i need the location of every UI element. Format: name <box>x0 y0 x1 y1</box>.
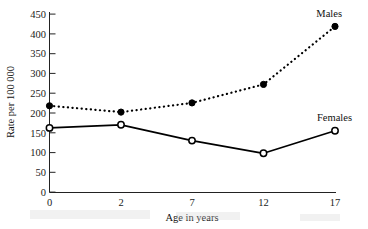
x-tick-labels: 0 2 7 12 17 <box>47 197 340 208</box>
x-tick-label: 17 <box>330 197 341 208</box>
y-tick-label: 350 <box>30 48 46 59</box>
females-point <box>332 128 338 134</box>
series-label-males: Males <box>316 8 342 19</box>
y-tick-label: 250 <box>30 88 46 99</box>
males-line <box>50 26 336 112</box>
y-tick-label: 400 <box>30 29 46 40</box>
line-chart: 450 400 350 300 250 200 150 100 50 0 0 2… <box>0 0 368 229</box>
y-tick-label: 100 <box>30 147 46 158</box>
males-point <box>260 81 266 87</box>
males-point <box>118 109 124 115</box>
females-point <box>118 122 124 128</box>
y-tick-label: 0 <box>41 187 46 198</box>
males-point <box>189 100 195 106</box>
males-point <box>46 103 52 109</box>
y-axis-title: Rate per 100 000 <box>5 66 16 138</box>
y-tick-label: 450 <box>30 9 46 20</box>
y-tick-labels: 450 400 350 300 250 200 150 100 50 0 <box>30 9 46 198</box>
x-tick-label: 2 <box>118 197 123 208</box>
x-axis-title: Age in years <box>165 212 218 223</box>
females-point <box>189 137 195 143</box>
y-tick-label: 50 <box>36 167 47 178</box>
x-tick-label: 12 <box>258 197 269 208</box>
females-point <box>260 150 266 156</box>
y-tick-label: 300 <box>30 68 46 79</box>
x-tick-label: 7 <box>189 197 194 208</box>
y-tick-label: 200 <box>30 108 46 119</box>
series-label-females: Females <box>317 112 352 123</box>
females-point <box>46 125 52 131</box>
series-females <box>46 122 338 157</box>
y-tick-label: 150 <box>30 128 46 139</box>
males-point <box>332 23 338 29</box>
chart-figure: 450 400 350 300 250 200 150 100 50 0 0 2… <box>0 0 368 229</box>
series-males <box>46 23 338 115</box>
x-tick-label: 0 <box>47 197 52 208</box>
